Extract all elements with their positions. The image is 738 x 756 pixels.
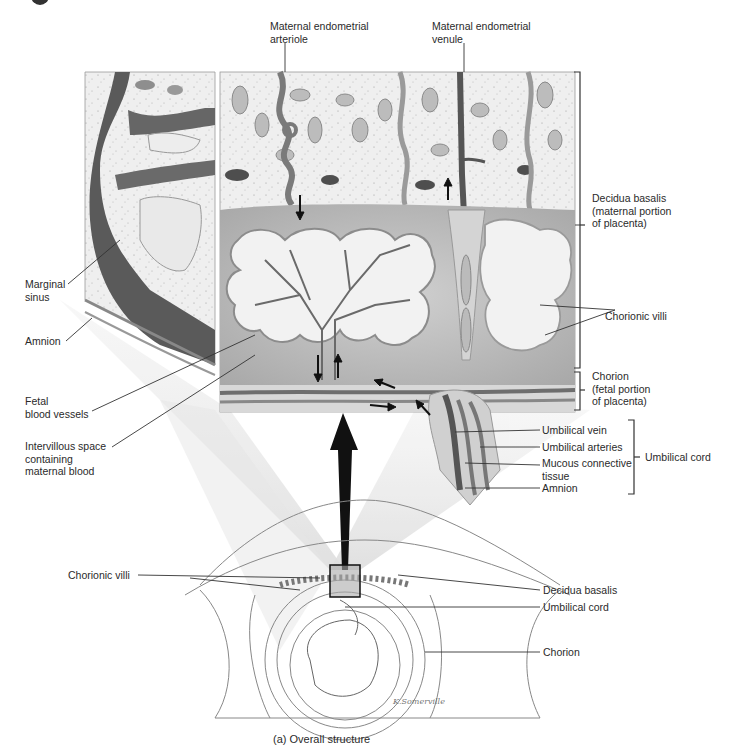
artist-signature: K.Somerville <box>393 697 445 706</box>
label-chorion-fetal: Chorion (fetal portion of placenta) <box>592 370 650 408</box>
label-decidua-basalis-lower: Decidua basalis <box>543 584 617 597</box>
label-mucous-connective-tissue: Mucous connective tissue <box>542 457 632 482</box>
label-intervillous-space: Intervillous space containing maternal b… <box>25 440 106 478</box>
label-fetal-blood-vessels: Fetal blood vessels <box>25 395 89 420</box>
label-decidua-basalis-maternal: Decidua basalis (maternal portion of pla… <box>592 192 671 230</box>
placenta-figure: Maternal endometrial arteriole Maternal … <box>0 0 738 756</box>
label-umbilical-arteries: Umbilical arteries <box>542 441 623 454</box>
label-chorionic-villi-right: Chorionic villi <box>605 310 667 323</box>
label-umbilical-cord-lower: Umbilical cord <box>543 601 609 614</box>
figure-caption: (a) Overall structure <box>273 733 370 745</box>
figure-number-badge <box>31 0 49 5</box>
label-chorionic-villi-lower: Chorionic villi <box>68 569 130 582</box>
label-maternal-endometrial-arteriole: Maternal endometrial arteriole <box>270 20 369 45</box>
label-maternal-endometrial-venule: Maternal endometrial venule <box>432 20 531 45</box>
label-marginal-sinus: Marginal sinus <box>25 278 65 303</box>
label-umbilical-vein: Umbilical vein <box>542 424 607 437</box>
label-amnion-left: Amnion <box>25 335 61 348</box>
magnified-region-box <box>330 565 360 597</box>
label-umbilical-cord-group: Umbilical cord <box>645 451 711 464</box>
label-amnion-right: Amnion <box>542 482 578 495</box>
label-chorion-lower: Chorion <box>543 646 580 659</box>
